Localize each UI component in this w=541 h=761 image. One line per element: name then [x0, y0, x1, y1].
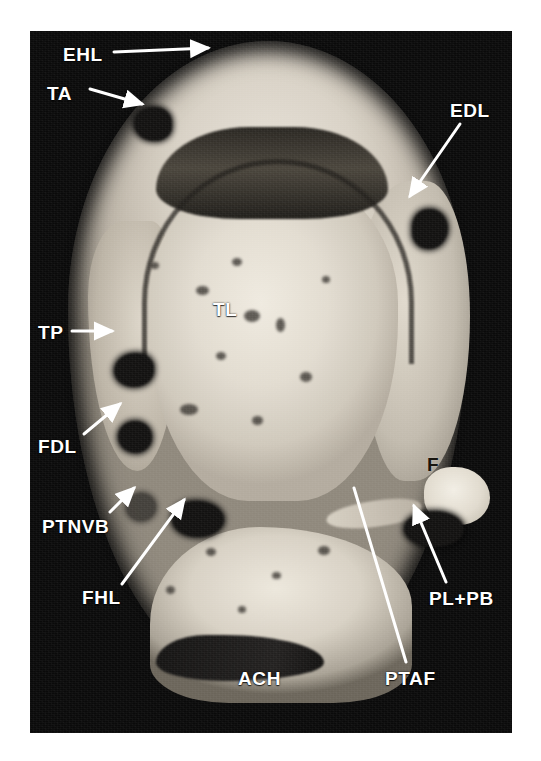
mri-image-plate: EHLTAEDLTLTPFDLPTNVBFHLFPL+PBPTAFACH — [30, 31, 512, 733]
anatomy-label-tp: TP — [38, 323, 63, 342]
anatomy-label-ta: TA — [47, 84, 72, 103]
mri-figure: EHLTAEDLTLTPFDLPTNVBFHLFPL+PBPTAFACH — [0, 0, 541, 761]
anatomy-label-fdl: FDL — [38, 437, 77, 456]
anatomy-label-plpb: PL+PB — [429, 589, 494, 608]
annotation-layer: EHLTAEDLTLTPFDLPTNVBFHLFPL+PBPTAFACH — [30, 31, 512, 733]
anatomy-label-ptaf: PTAF — [385, 669, 436, 688]
anatomy-label-ehl: EHL — [63, 45, 103, 64]
anatomy-label-f: F — [427, 455, 439, 474]
anatomy-label-tl: TL — [213, 300, 237, 319]
anatomy-label-ptnvb: PTNVB — [42, 517, 109, 536]
anatomy-label-edl: EDL — [450, 101, 490, 120]
anatomy-label-ach: ACH — [238, 669, 281, 688]
anatomy-label-fhl: FHL — [82, 588, 121, 607]
